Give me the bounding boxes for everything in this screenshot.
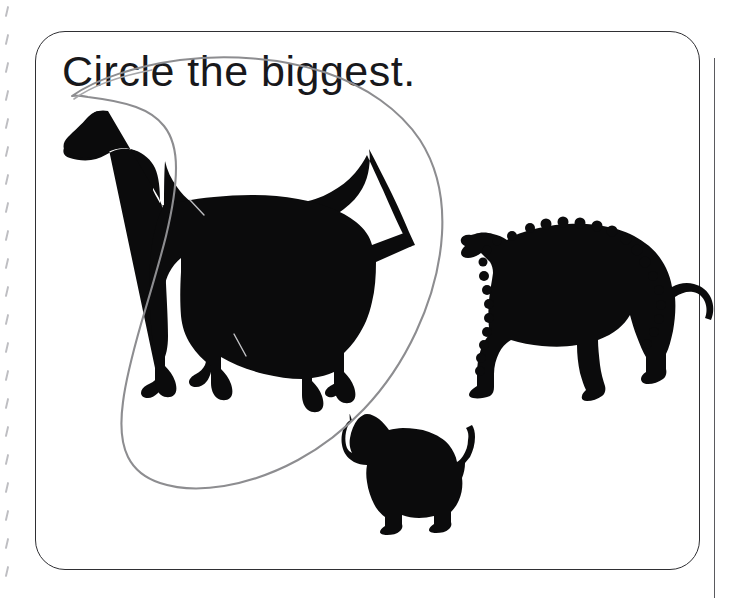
- worksheet-page: Circle the biggest.: [0, 0, 731, 598]
- shaggy-medium-dog-silhouette[interactable]: [461, 217, 714, 402]
- dog-silhouettes-layer: [0, 0, 731, 598]
- chihuahua-silhouette[interactable]: [342, 414, 476, 535]
